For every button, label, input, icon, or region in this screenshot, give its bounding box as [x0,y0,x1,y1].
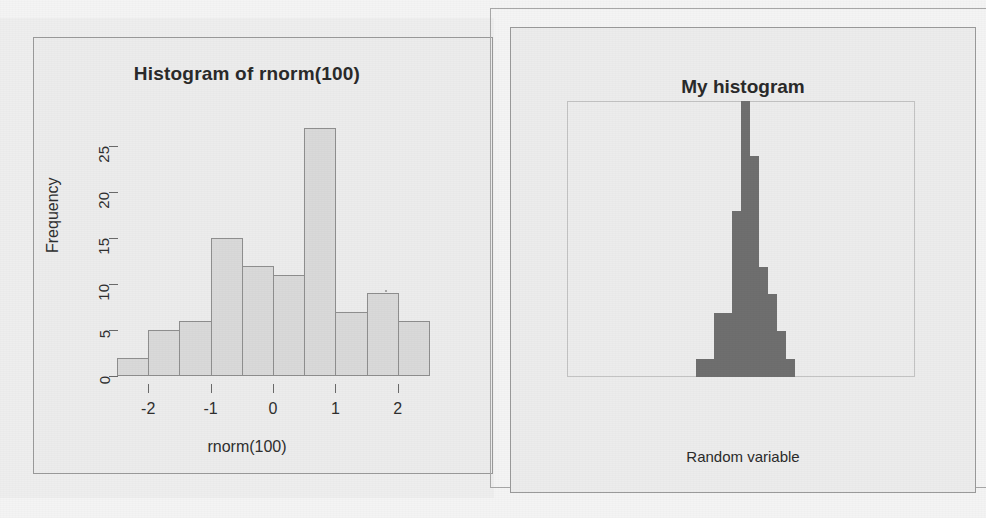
left-x-tick [273,384,274,393]
right-histogram-bar [759,267,768,377]
left-x-tick [148,384,149,393]
right-histogram-bar [786,359,795,377]
left-x-tick-label: 1 [331,400,340,418]
right-histogram-bar [732,211,741,377]
left-histogram-bar [273,275,305,376]
right-x-axis-label: Random variable [511,448,975,465]
left-chart-title: Histogram of rnorm(100) [0,63,494,85]
right-histogram-bar [705,359,714,377]
left-x-tick [211,384,212,393]
right-histogram-bar [714,313,723,377]
left-histogram-bar [211,238,243,376]
right-chart-title: My histogram [511,76,975,98]
scan-speck [385,290,387,292]
right-plot-area [567,101,915,377]
left-histogram-bar [398,321,430,376]
left-y-tick-label: 5 [96,330,113,338]
left-x-tick-label: -1 [203,400,217,418]
right-histogram-bar [696,359,705,377]
left-y-axis-label: Frequency [44,177,62,253]
left-y-tick-label: 10 [96,284,113,301]
right-histogram-bar [741,101,750,377]
right-histogram-panel: My histogram Random variable [510,27,976,493]
left-x-tick [398,384,399,393]
right-histogram-bar [777,331,786,377]
left-x-axis-label: rnorm(100) [0,438,494,456]
left-y-tick-label: 20 [96,192,113,209]
left-histogram-bar [367,293,399,376]
left-x-tick-label: -2 [141,400,155,418]
left-histogram-bar [179,321,211,376]
left-histogram-panel: Histogram of rnorm(100) 0510152025 Frequ… [0,18,494,498]
left-x-axis: -2-1012 [117,378,429,379]
left-x-tick-label: 0 [269,400,278,418]
left-y-tick-label: 25 [96,146,113,163]
left-y-tick-label: 15 [96,238,113,255]
right-histogram-bar [750,156,759,377]
right-histogram-bar [768,294,777,377]
left-histogram-bar [117,358,149,376]
left-y-tick-label: 0 [96,376,113,384]
left-plot-area [117,128,429,376]
left-x-tick [335,384,336,393]
right-histogram-bar [723,313,732,377]
left-histogram-bar [304,128,336,376]
left-histogram-bar [242,266,274,376]
left-histogram-bar [148,330,180,376]
left-histogram-bar [335,312,367,376]
left-x-tick-label: 2 [393,400,402,418]
left-y-axis: 0510152025 [100,123,118,381]
